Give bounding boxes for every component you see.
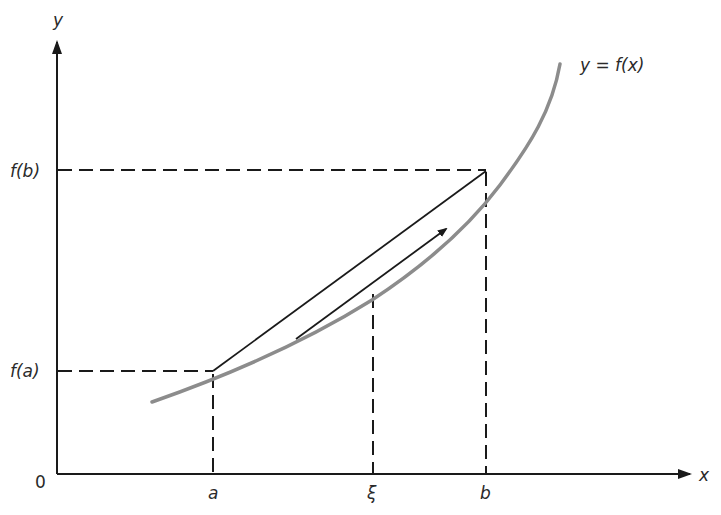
y-axis-label: y (52, 10, 64, 30)
fb-label: f(b) (10, 161, 40, 181)
xi-label: ξ (366, 483, 377, 503)
origin-label: 0 (35, 472, 46, 492)
a-label: a (208, 483, 218, 503)
function-curve (152, 64, 560, 402)
fa-label: f(a) (10, 361, 40, 381)
curve-label: y = f(x) (579, 55, 644, 75)
guide-lines (58, 170, 486, 474)
secant-chord (213, 171, 486, 371)
x-axis-label: x (698, 465, 710, 485)
tangent-arrow (296, 229, 446, 339)
b-label: b (480, 483, 491, 503)
mean-value-theorem-figure: y x 0 f(b) f(a) a ξ b y = f(x) (0, 0, 721, 515)
